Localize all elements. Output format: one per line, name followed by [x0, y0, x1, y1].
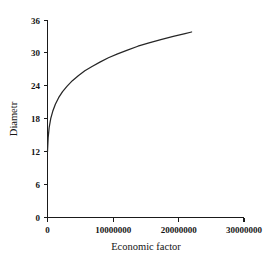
y-axis-tick-labels: 0 6 12 18 24 30 36 — [31, 16, 41, 223]
chart-page: 0 6 12 18 24 30 36 Diametr 0 10000000 20 — [0, 0, 276, 266]
y-tick-label-12: 12 — [31, 147, 41, 157]
y-tick-label-30: 30 — [31, 48, 41, 58]
y-tick-label-6: 6 — [36, 180, 41, 190]
y-axis-ticks — [44, 21, 48, 218]
x-tick-label-20000000: 20000000 — [161, 225, 198, 235]
x-axis-tick-labels: 0 10000000 20000000 30000000 — [45, 225, 262, 235]
y-axis: 0 6 12 18 24 30 36 Diametr — [8, 16, 48, 223]
x-axis: 0 10000000 20000000 30000000 Economic fa… — [45, 218, 262, 253]
y-tick-label-36: 36 — [31, 16, 41, 26]
y-tick-label-24: 24 — [31, 81, 41, 91]
economic-factor-diameter-chart: 0 6 12 18 24 30 36 Diametr 0 10000000 20 — [0, 0, 276, 266]
y-tick-label-0: 0 — [36, 213, 41, 223]
data-series-line — [48, 32, 192, 152]
y-axis-title: Diametr — [8, 101, 19, 136]
y-tick-label-18: 18 — [31, 114, 41, 124]
x-axis-title: Economic factor — [111, 241, 181, 252]
x-tick-label-10000000: 10000000 — [95, 225, 132, 235]
x-axis-ticks — [48, 218, 245, 222]
x-tick-label-0: 0 — [45, 225, 50, 235]
x-tick-label-30000000: 30000000 — [226, 225, 263, 235]
